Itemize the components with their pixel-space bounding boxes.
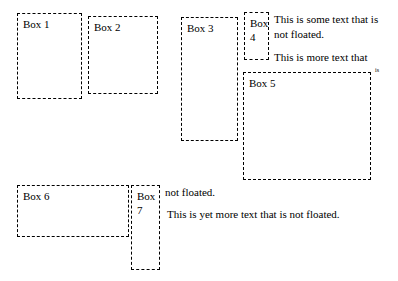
box-2: Box 2 [88, 16, 158, 94]
box-5-label: Box 5 [249, 77, 276, 89]
paragraph-not-floated-4: This is yet more text that is not floate… [167, 207, 392, 222]
box-1-label: Box 1 [23, 18, 50, 30]
paragraph-not-floated-2-overflow: is [375, 67, 379, 73]
box-3-label: Box 3 [187, 22, 214, 34]
box-5: Box 5 [243, 72, 371, 180]
box-4-label: Box 4 [250, 17, 268, 43]
box-6-label: Box 6 [23, 190, 50, 202]
paragraph-not-floated-1: This is some text that is not floated. [274, 12, 386, 42]
box-2-label: Box 2 [94, 21, 121, 33]
box-7: Box 7 [131, 185, 160, 270]
paragraph-not-floated-2: This is more text that [274, 50, 386, 65]
box-3: Box 3 [181, 17, 238, 141]
box-7-label: Box 7 [137, 190, 155, 216]
paragraph-not-floated-3: not floated. [165, 185, 285, 200]
box-6: Box 6 [17, 185, 129, 237]
box-1: Box 1 [17, 13, 82, 99]
box-4: Box 4 [244, 12, 269, 60]
document-canvas: Box 1 Box 2 Box 3 Box 4 Box 5 Box 6 Box … [0, 0, 398, 281]
